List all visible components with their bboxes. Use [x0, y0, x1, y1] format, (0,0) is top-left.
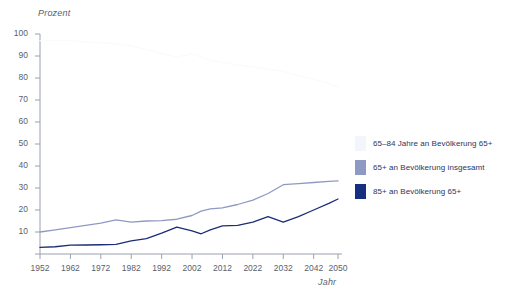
data-series-lines: [40, 41, 338, 248]
legend-item-label: 65+ an Bevölkerung insgesamt: [373, 163, 484, 172]
series-line-2: [40, 181, 338, 232]
chart-legend: 65–84 Jahre an Bevölkerung 65+65+ an Bev…: [355, 131, 507, 203]
axis-ticks: [35, 34, 338, 259]
population-aging-line-chart: Prozent Jahr 102030405060708090100 19521…: [0, 0, 511, 294]
legend-item-3[interactable]: 85+ an Bevölkerung 65+: [355, 179, 507, 203]
series-line-1: [40, 41, 338, 87]
legend-item-2[interactable]: 65+ an Bevölkerung insgesamt: [355, 155, 507, 179]
legend-item-label: 85+ an Bevölkerung 65+: [373, 187, 461, 196]
legend-swatch-icon: [355, 160, 366, 175]
legend-swatch-icon: [355, 184, 366, 199]
axis-lines: [40, 34, 342, 254]
series-line-3: [40, 199, 338, 247]
legend-item-1[interactable]: 65–84 Jahre an Bevölkerung 65+: [355, 131, 507, 155]
legend-item-label: 65–84 Jahre an Bevölkerung 65+: [373, 139, 493, 148]
legend-swatch-icon: [355, 136, 366, 151]
